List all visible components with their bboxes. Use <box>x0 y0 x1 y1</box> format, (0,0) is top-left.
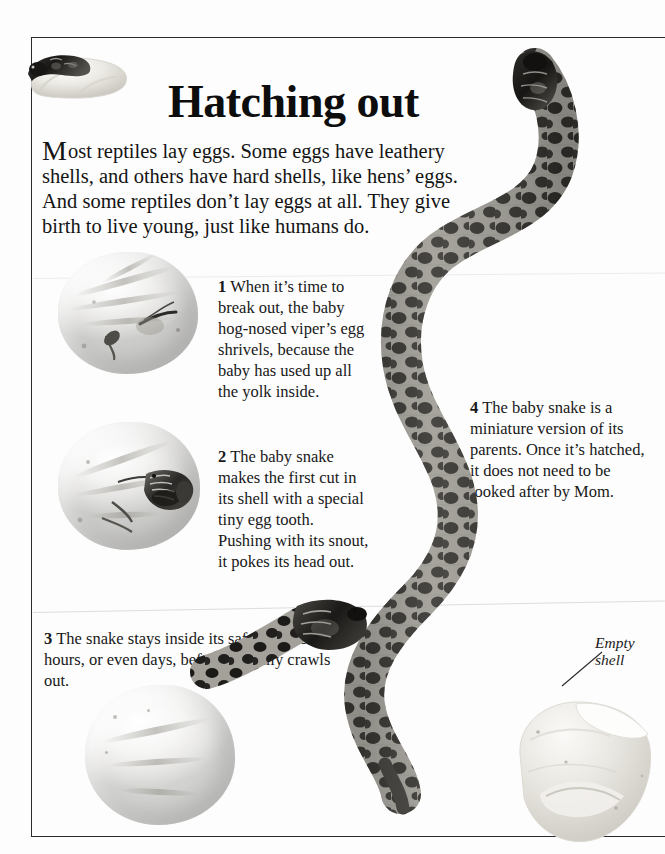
snake-in-shell-art <box>18 44 138 102</box>
egg-speck <box>113 715 117 719</box>
egg-speck <box>105 751 108 754</box>
caption-number: 2 <box>218 447 230 466</box>
caption-number: 3 <box>44 629 56 648</box>
page-canvas: Hatching out Most reptiles lay eggs. Som… <box>0 0 665 854</box>
emerging-head-art <box>58 422 200 550</box>
egg-speck <box>147 709 150 712</box>
figure-egg-with-head <box>58 422 200 550</box>
caption-number: 1 <box>218 277 230 296</box>
shriveled-egg-slit-art <box>58 252 198 374</box>
page-rule-left <box>31 37 32 837</box>
intro-dropcap: M <box>42 135 68 166</box>
figure-snake-head-from-egg <box>205 588 385 708</box>
page-rule-top <box>31 37 665 38</box>
figure-shriveled-egg <box>58 252 198 374</box>
crawling-snake-head-art <box>205 588 385 708</box>
figure-snake-in-shell <box>18 44 138 102</box>
